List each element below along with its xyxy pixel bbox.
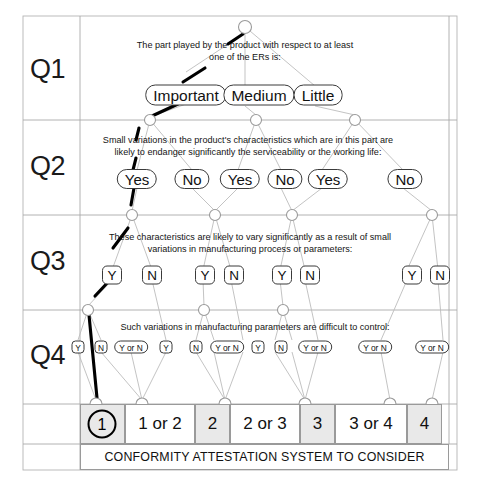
answer-q4-4[interactable]: Y (160, 341, 173, 354)
answer-q1-important[interactable]: Important (145, 85, 226, 106)
answer-q4-3[interactable]: Y or N (114, 341, 148, 354)
answer-q2-2[interactable]: No (174, 169, 209, 189)
result-highlight-1[interactable]: 1 (88, 410, 117, 439)
answer-q2-4[interactable]: No (267, 169, 302, 189)
answer-q1-medium[interactable]: Medium (223, 85, 294, 106)
question-text-q2: Small variations in the product's charac… (88, 135, 408, 158)
answer-q1-little[interactable]: Little (294, 85, 343, 106)
answer-q3-8[interactable]: N (430, 266, 450, 285)
answer-q2-3[interactable]: Yes (220, 169, 260, 189)
answer-q4-7[interactable]: Y (252, 341, 265, 354)
row-label-q3: Q3 (30, 246, 65, 277)
row-label-q2: Q2 (30, 151, 65, 182)
diagram-caption: CONFORMITY ATTESTATION SYSTEM TO CONSIDE… (80, 444, 449, 470)
answer-q3-7[interactable]: Y (402, 266, 422, 285)
result-cell-3[interactable]: 3 (300, 404, 335, 444)
answer-q3-1[interactable]: Y (102, 266, 122, 285)
decision-tree-diagram: Q1 Q2 Q3 Q4 The part played by the produ… (0, 0, 479, 497)
answer-q4-2[interactable]: N (95, 341, 108, 354)
answer-q4-11[interactable]: Y or N (415, 341, 449, 354)
result-cell-3or4[interactable]: 3 or 4 (335, 404, 407, 444)
answer-q3-3[interactable]: Y (195, 266, 215, 285)
question-text-q1: The part played by the product with resp… (120, 40, 370, 63)
result-cell-2or3[interactable]: 2 or 3 (230, 404, 300, 444)
result-cell-1or2[interactable]: 1 or 2 (125, 404, 195, 444)
answer-q4-6[interactable]: Y or N (210, 341, 244, 354)
question-text-q4: Such variations in manufacturing paramet… (110, 322, 400, 334)
result-cell-4[interactable]: 4 (407, 404, 442, 444)
result-cell-2[interactable]: 2 (195, 404, 230, 444)
answer-q4-9[interactable]: Y or N (298, 341, 332, 354)
answer-q4-1[interactable]: Y (72, 341, 85, 354)
answer-q3-6[interactable]: N (300, 266, 320, 285)
question-text-q3: These characteristics are likely to vary… (95, 232, 405, 255)
answer-q4-5[interactable]: N (190, 341, 203, 354)
answer-q4-10[interactable]: Y or N (358, 341, 392, 354)
answer-q2-5[interactable]: Yes (308, 169, 348, 189)
answer-q3-4[interactable]: N (224, 266, 244, 285)
answer-q3-5[interactable]: Y (272, 266, 292, 285)
row-label-q4: Q4 (30, 340, 65, 371)
answer-q2-1[interactable]: Yes (117, 169, 157, 189)
answer-q4-8[interactable]: N (275, 341, 288, 354)
answer-q3-2[interactable]: N (142, 266, 162, 285)
answer-q2-6[interactable]: No (387, 169, 422, 189)
row-label-q1: Q1 (30, 54, 65, 85)
